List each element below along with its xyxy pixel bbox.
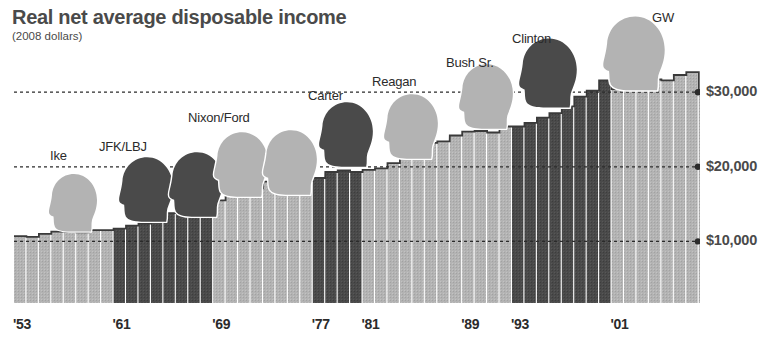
- x-axis-tick-label: '81: [362, 316, 380, 332]
- y-axis-tick-label: $30,000: [706, 83, 757, 99]
- head-silhouette-icon: [519, 38, 577, 107]
- bar: [238, 192, 249, 303]
- x-axis-tick-label: '53: [13, 316, 31, 332]
- bar: [686, 72, 697, 303]
- bar: [275, 185, 286, 303]
- bar: [114, 229, 125, 303]
- bar: [226, 196, 237, 303]
- bar: [400, 153, 411, 303]
- bar: [562, 106, 573, 303]
- bar: [151, 218, 162, 303]
- head-jfk: [119, 157, 173, 221]
- head-ford: [263, 130, 317, 194]
- bar: [537, 118, 548, 303]
- head-silhouette-icon: [384, 94, 438, 158]
- bar: [375, 168, 386, 303]
- bar: [450, 135, 461, 303]
- bar: [462, 132, 473, 303]
- bar: [661, 80, 672, 303]
- bar: [674, 75, 685, 303]
- head-silhouette-icon: [119, 157, 173, 221]
- bar: [313, 178, 324, 303]
- bar: [412, 149, 423, 303]
- head-carter: [319, 102, 373, 166]
- chart-figure: Real net average disposable income (2008…: [0, 0, 779, 349]
- head-silhouette-icon: [319, 102, 373, 166]
- head-silhouette-icon: [214, 132, 268, 196]
- president-label-bush-sr: Bush Sr.: [446, 55, 494, 70]
- head-lbj: [169, 152, 223, 216]
- head-silhouette-icon: [263, 130, 317, 194]
- bar: [587, 91, 598, 303]
- bar: [325, 172, 336, 303]
- head-nixon: [214, 132, 268, 196]
- bar: [350, 172, 361, 303]
- bar: [263, 182, 274, 303]
- bar: [500, 127, 511, 303]
- bar: [126, 226, 137, 303]
- president-label-gw: GW: [652, 10, 674, 25]
- head-gw: [603, 17, 664, 91]
- bar: [139, 224, 150, 304]
- bar: [524, 123, 535, 303]
- president-label-reagan: Reagan: [372, 74, 416, 89]
- bar: [188, 206, 199, 303]
- bar: [176, 210, 187, 303]
- x-axis-tick-label: '89: [461, 316, 479, 332]
- bar: [549, 113, 560, 303]
- head-clinton: [519, 38, 577, 107]
- head-ike: [49, 174, 97, 232]
- president-label-carter: Carter: [308, 88, 343, 103]
- bar: [388, 163, 399, 303]
- bar: [612, 89, 623, 303]
- bar: [624, 88, 635, 303]
- bar: [599, 80, 610, 303]
- bar: [487, 132, 498, 303]
- president-label-ike: Ike: [50, 148, 67, 163]
- head-silhouette-icon: [49, 174, 97, 232]
- bar: [649, 80, 660, 303]
- president-label-jfk-lbj: JFK/LBJ: [99, 139, 147, 154]
- bar: [26, 237, 37, 303]
- bar: [39, 234, 50, 303]
- bar: [699, 90, 700, 303]
- head-bush-sr: [459, 64, 513, 128]
- bar: [574, 97, 585, 303]
- bar: [64, 232, 75, 303]
- x-axis-tick-label: '69: [212, 316, 230, 332]
- president-label-nixon-ford: Nixon/Ford: [188, 110, 250, 125]
- bar: [288, 183, 299, 303]
- bar: [512, 127, 523, 303]
- head-silhouette-icon: [169, 152, 223, 216]
- bar: [475, 131, 486, 303]
- head-silhouette-icon: [603, 17, 664, 91]
- chart-svg: [0, 0, 700, 349]
- bar: [637, 83, 648, 303]
- head-reagan: [384, 94, 438, 158]
- bar: [338, 171, 349, 303]
- x-axis-tick-label: '61: [113, 316, 131, 332]
- bar: [163, 213, 174, 303]
- bar: [363, 170, 374, 303]
- x-axis-tick-label: '01: [611, 316, 629, 332]
- bar: [251, 188, 262, 303]
- head-silhouette-icon: [459, 64, 513, 128]
- y-axis-tick-label: $20,000: [706, 158, 757, 174]
- y-axis-tick-label: $10,000: [706, 232, 757, 248]
- plot-area: [0, 0, 700, 349]
- x-axis-tick-label: '93: [511, 316, 529, 332]
- bar: [76, 232, 87, 303]
- president-label-clinton: Clinton: [512, 31, 551, 46]
- x-axis-tick-label: '77: [312, 316, 330, 332]
- bar: [51, 232, 62, 303]
- bar: [14, 236, 25, 303]
- bar: [437, 141, 448, 303]
